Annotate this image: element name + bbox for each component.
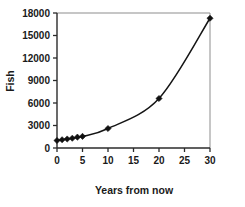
fish-population-chart: 0300060009000120001500018000 05101520253… [0, 0, 245, 207]
y-tick-label: 12000 [22, 53, 50, 64]
x-tick-label: 15 [128, 155, 140, 166]
chart-canvas: 0300060009000120001500018000 05101520253… [0, 0, 245, 207]
y-tick-label: 3000 [28, 120, 51, 131]
y-tick-label: 6000 [28, 98, 51, 109]
y-axis-title: Fish [4, 70, 16, 92]
y-tick-label: 9000 [28, 75, 51, 86]
y-tick-label: 18000 [22, 8, 50, 19]
y-tick-label: 0 [44, 143, 50, 154]
x-tick-label: 5 [80, 155, 86, 166]
y-tick-label: 15000 [22, 30, 50, 41]
x-tick-label: 20 [153, 155, 165, 166]
x-tick-label: 0 [54, 155, 60, 166]
y-axis-tick-labels: 0300060009000120001500018000 [22, 8, 50, 154]
plot-background [57, 13, 210, 148]
x-tick-label: 25 [179, 155, 191, 166]
x-tick-label: 30 [204, 155, 216, 166]
x-tick-label: 10 [102, 155, 114, 166]
x-axis-title: Years from now [95, 184, 174, 196]
x-axis-tick-labels: 051015202530 [54, 155, 216, 166]
